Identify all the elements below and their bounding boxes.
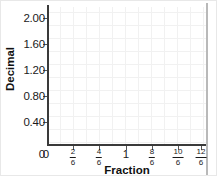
- y-tick-label-wrap: 2.00: [1, 12, 45, 26]
- gridline-horizontal: [47, 77, 206, 78]
- y-tick-label: 0.40: [1, 116, 45, 128]
- gridline-vertical: [164, 7, 165, 144]
- gridline-vertical: [112, 7, 113, 144]
- fraction-numerator: 4: [96, 148, 102, 157]
- y-axis-title: Decimal: [4, 41, 16, 97]
- x-tick-label-one: 1: [123, 148, 129, 160]
- gridline-vertical: [203, 7, 204, 144]
- plot-area: [47, 7, 206, 144]
- fraction-numerator: 2: [70, 148, 76, 157]
- gridline-horizontal: [47, 51, 206, 52]
- x-axis-title: Fraction: [47, 164, 207, 176]
- fraction-numerator: 10: [173, 148, 184, 157]
- fraction-decimal-chart: 2.00 1.60 1.20 0.80 0.40 0 0 2 6 4 6 1 8…: [0, 0, 217, 176]
- gridline-horizontal: [47, 116, 206, 117]
- gridline-horizontal: [47, 90, 206, 91]
- gridline-vertical: [60, 7, 61, 144]
- gridline-vertical: [151, 7, 152, 144]
- y-axis-line: [47, 5, 49, 146]
- gridline-vertical: [138, 7, 139, 144]
- gridline-vertical: [190, 7, 191, 144]
- gridline-vertical: [99, 7, 100, 144]
- gridline-horizontal: [47, 38, 206, 39]
- gridline-horizontal: [47, 64, 206, 65]
- gridline-horizontal: [47, 25, 206, 26]
- y-tick-label-wrap: 0: [1, 148, 45, 162]
- gridline-vertical: [73, 7, 74, 144]
- gridline-horizontal: [47, 142, 206, 143]
- gridline-horizontal: [47, 103, 206, 104]
- gridline-vertical: [125, 7, 126, 144]
- y-tick-label-zero: 0: [1, 148, 45, 160]
- gridline-vertical: [86, 7, 87, 144]
- x-tick-label-zero: 0: [43, 148, 49, 160]
- gridline-horizontal: [47, 129, 206, 130]
- x-axis-line: [47, 144, 207, 146]
- y-tick-label-wrap: 0.40: [1, 116, 45, 130]
- gridline-horizontal: [47, 12, 206, 13]
- fraction-numerator: 8: [149, 148, 155, 157]
- fraction-numerator: 12: [196, 148, 207, 157]
- gridline-vertical: [177, 7, 178, 144]
- y-tick-label: 2.00: [1, 12, 45, 24]
